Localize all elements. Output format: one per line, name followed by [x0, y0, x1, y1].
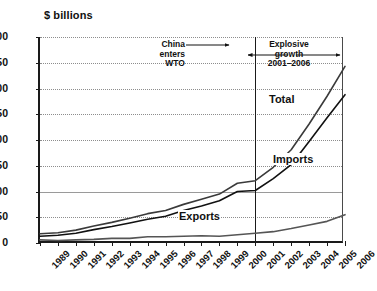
- x-tick-label: 1994: [139, 248, 162, 271]
- x-tick-label: 2003: [300, 248, 323, 271]
- x-tick-label: 2006: [354, 248, 377, 271]
- x-tick-label: 1990: [67, 248, 90, 271]
- series-label-imports: Imports: [272, 153, 314, 165]
- x-tick-label: 1995: [157, 248, 180, 271]
- x-tick-label: 1991: [85, 248, 108, 271]
- x-tick-label: 1992: [103, 248, 126, 271]
- annotation-china-enters-wto: China enters WTO: [125, 40, 185, 69]
- x-tick-label: 1996: [175, 248, 198, 271]
- x-tick-label: 2004: [318, 248, 341, 271]
- y-axis-title: $ billions: [44, 9, 93, 21]
- x-tick-label: 2002: [282, 248, 305, 271]
- x-tick-label: 1993: [121, 248, 144, 271]
- annotation-explosive-growth: Explosive growth 2001–2006: [246, 40, 332, 69]
- annotation-line: 2001–2006: [246, 59, 332, 69]
- series-label-total: Total: [268, 93, 295, 105]
- x-tick-label: 2005: [336, 248, 359, 271]
- x-tick-label: 2001: [264, 248, 287, 271]
- x-tick-label: 1989: [49, 248, 72, 271]
- annotation-line: WTO: [125, 59, 185, 69]
- series-label-exports: Exports: [178, 210, 221, 222]
- x-tickmark: [345, 241, 346, 246]
